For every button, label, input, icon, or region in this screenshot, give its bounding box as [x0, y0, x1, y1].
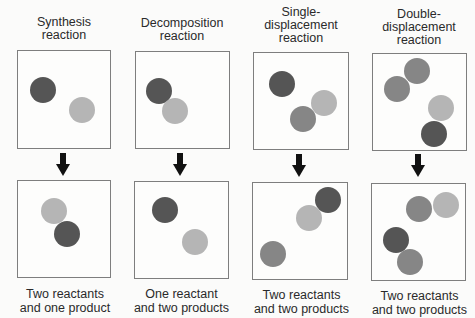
atom-mid	[406, 196, 432, 222]
atom-light	[41, 198, 67, 224]
arrow-down-icon	[292, 154, 306, 178]
atom-mid	[290, 106, 316, 132]
atom-mid	[260, 241, 286, 267]
single-displacement-caption-line-1: Two reactants	[244, 288, 359, 302]
synthesis-caption: Two reactants and one product	[10, 287, 120, 315]
synthesis-caption-line-1: Two reactants	[10, 287, 120, 301]
decomposition-title: Decomposition reaction	[127, 17, 237, 43]
arrow-down-icon	[173, 153, 187, 177]
single-displacement-title: Single- displacement reaction	[246, 6, 356, 45]
atom-dark	[30, 77, 56, 103]
synthesis-title-line-2: reaction	[14, 29, 114, 42]
decomposition-products-box	[134, 181, 229, 279]
double-displacement-caption-line-2: and two products	[362, 303, 475, 317]
single-displacement-title-line-3: reaction	[246, 32, 356, 45]
synthesis-reactants-box	[17, 50, 111, 149]
atom-light	[311, 90, 337, 116]
double-displacement-caption-line-1: Two reactants	[362, 289, 475, 303]
atom-light	[296, 205, 322, 231]
decomposition-caption-line-1: One reactant	[124, 287, 239, 301]
atom-dark	[152, 197, 178, 223]
decomposition-caption-line-2: and two products	[124, 301, 239, 315]
atom-mid	[397, 249, 423, 275]
atom-light	[428, 95, 454, 121]
arrow-down-icon	[56, 153, 70, 177]
atom-dark	[54, 221, 80, 247]
single-displacement-caption-line-2: and two products	[244, 302, 359, 316]
arrow-down-icon	[411, 154, 425, 178]
atom-light	[162, 98, 188, 124]
double-displacement-title-line-3: reaction	[364, 34, 474, 47]
atom-dark	[421, 121, 447, 147]
atom-light	[433, 192, 459, 218]
atom-mid	[404, 58, 430, 84]
synthesis-caption-line-2: and one product	[10, 301, 120, 315]
double-displacement-title: Double- displacement reaction	[364, 8, 474, 47]
synthesis-title: Synthesis reaction	[14, 16, 114, 42]
atom-light	[69, 97, 95, 123]
atom-light	[182, 229, 208, 255]
atom-mid	[384, 76, 410, 102]
single-displacement-caption: Two reactants and two products	[244, 288, 359, 316]
atom-dark	[269, 71, 295, 97]
decomposition-title-line-2: reaction	[127, 30, 237, 43]
decomposition-caption: One reactant and two products	[124, 287, 239, 315]
double-displacement-caption: Two reactants and two products	[362, 289, 475, 317]
